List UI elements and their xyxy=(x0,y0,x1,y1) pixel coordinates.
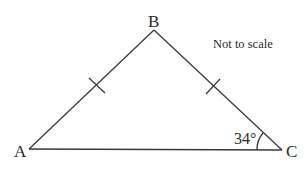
vertex-label-b: B xyxy=(148,12,159,31)
vertex-label-a: A xyxy=(14,142,27,161)
tick-mark-ab xyxy=(89,78,105,93)
angle-label: 34° xyxy=(234,130,256,147)
vertex-label-c: C xyxy=(286,142,297,161)
angle-arc-c xyxy=(257,133,263,150)
side-ab xyxy=(29,30,154,149)
scale-note: Not to scale xyxy=(213,37,273,51)
side-ac xyxy=(29,149,282,150)
triangle-diagram: A B C 34° Not to scale xyxy=(0,0,305,174)
